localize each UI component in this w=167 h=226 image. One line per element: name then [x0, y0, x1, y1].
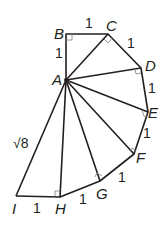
label-AB: 1: [55, 45, 63, 61]
label-AI: √8: [13, 135, 29, 151]
label-DE: 1: [148, 80, 156, 96]
segment-AF: [66, 80, 134, 154]
label-A: A: [51, 71, 62, 88]
point-A-dot: [64, 78, 68, 82]
right-angle-markers: [55, 34, 148, 196]
label-C: C: [106, 17, 117, 34]
outer-edges: [16, 34, 148, 197]
segment-AH: [60, 80, 66, 197]
label-B: B: [54, 25, 64, 42]
spiral-diagram: B C A D E F G H I 1 1 1 1 1 1 1 1 √8: [0, 0, 167, 226]
label-HI: 1: [33, 200, 41, 216]
label-D: D: [145, 57, 156, 74]
label-I: I: [12, 200, 16, 217]
segment-AD: [66, 68, 141, 80]
label-G: G: [96, 185, 108, 202]
label-GH: 1: [79, 191, 87, 207]
label-FG: 1: [118, 169, 126, 185]
label-F: F: [136, 149, 146, 166]
label-CD: 1: [127, 35, 135, 51]
label-E: E: [148, 104, 159, 121]
segment-AE: [66, 80, 148, 112]
segment-AG: [66, 80, 100, 181]
segment-AC: [66, 34, 108, 80]
label-BC: 1: [85, 15, 93, 31]
label-EF: 1: [143, 125, 151, 141]
label-H: H: [55, 200, 66, 217]
